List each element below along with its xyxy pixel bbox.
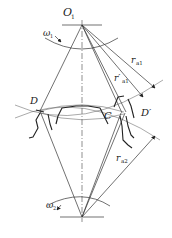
line-o1-dprime [82,25,126,112]
omega1-arc [45,38,118,49]
label-o1-sub: 1 [71,13,75,20]
gear-meshing-diagram: O 1 ω 1 ω 2 r a1 r′ a1 r a2 D D′ C [0,0,172,238]
label-d-prime: D′ [140,107,152,118]
label-omega2-sub: 2 [53,205,56,211]
label-ra2-sub: a2 [121,158,128,164]
label-ra1-prime: r′ [114,73,120,83]
label-c: C [104,110,112,121]
label-omega1-sub: 1 [50,33,53,39]
omega2-arc [48,197,110,206]
label-d: D [29,95,38,106]
omega2-arrow-icon [57,205,61,210]
line-o1-c [82,25,122,113]
label-ra1-sub: a1 [136,60,143,66]
omega1-arrow-icon [55,36,61,42]
gear2-teeth [29,113,134,148]
line-o2-dprime [82,113,125,217]
ra2-dimension [82,136,155,217]
label-ra1-prime-sub: a1 [122,78,129,84]
